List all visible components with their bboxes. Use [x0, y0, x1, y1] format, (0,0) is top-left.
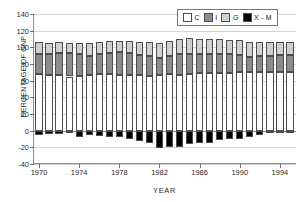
bar-segment-g	[276, 42, 283, 55]
bar-segment-i	[86, 56, 93, 75]
y-axis-tick-mark	[30, 147, 34, 148]
bar-segment-c	[286, 72, 293, 130]
bar-group	[76, 14, 83, 164]
chart-legend: CIGX - M	[177, 9, 278, 26]
x-axis-tick-label: 1990	[231, 168, 248, 177]
y-axis-tick-mark	[30, 14, 34, 15]
bar-segment-c	[35, 74, 42, 130]
legend-label: X - M	[254, 14, 272, 21]
bar-group	[136, 14, 143, 164]
bar-segment-i	[216, 54, 223, 73]
bar-segment-xm	[55, 131, 62, 135]
bar-group	[126, 14, 133, 164]
bar-segment-c	[96, 74, 103, 130]
x-axis-tick-mark	[280, 164, 281, 168]
bar-segment-i	[176, 54, 183, 75]
bar-segment-g	[256, 42, 263, 57]
bar-segment-g	[96, 42, 103, 55]
bar-group	[266, 14, 273, 164]
y-axis-tick-mark	[30, 164, 34, 165]
bar-segment-i	[45, 54, 52, 75]
bar-segment-c	[246, 72, 253, 130]
bar-segment-g	[286, 42, 293, 55]
y-axis-tick-mark	[30, 47, 34, 48]
bar-segment-g	[35, 42, 42, 54]
bar-segment-xm	[136, 131, 143, 142]
legend-item-i: I	[204, 13, 218, 22]
legend-label: G	[233, 14, 239, 21]
bar-group	[45, 14, 52, 164]
x-axis-tick-label: 1974	[71, 168, 88, 177]
bar-segment-i	[226, 54, 233, 72]
bar-segment-i	[166, 56, 173, 74]
bar-segment-i	[116, 52, 123, 75]
y-axis-tick-mark	[30, 64, 34, 65]
bar-segment-xm	[216, 131, 223, 140]
y-axis-tick-label: -40	[18, 160, 29, 169]
bar-segment-i	[256, 56, 263, 72]
legend-swatch	[243, 13, 252, 22]
bar-segment-i	[266, 56, 273, 72]
bar-segment-i	[156, 58, 163, 75]
bar-segment-g	[236, 40, 243, 55]
bar-segment-i	[96, 54, 103, 74]
bar-group	[176, 14, 183, 164]
x-axis-tick-label: 1994	[272, 168, 289, 177]
bar-segment-c	[196, 73, 203, 131]
bar-segment-xm	[45, 131, 52, 134]
plot-area: -40-20020406080100120140 197019741978198…	[33, 14, 296, 164]
bar-group	[276, 14, 283, 164]
bar-segment-xm	[156, 131, 163, 148]
bar-segment-c	[236, 72, 243, 130]
bar-segment-i	[206, 54, 213, 73]
bar-segment-c	[45, 75, 52, 131]
bar-group	[156, 14, 163, 164]
y-axis-tick-label: 120	[16, 26, 29, 35]
bar-segment-xm	[186, 131, 193, 144]
bar-segment-xm	[246, 131, 253, 137]
bar-segment-i	[276, 55, 283, 73]
x-axis-tick-label: 1986	[191, 168, 208, 177]
bar-segment-c	[256, 72, 263, 131]
bar-segment-g	[55, 42, 62, 52]
bar-segment-xm	[126, 131, 133, 139]
bar-segment-c	[156, 75, 163, 131]
bar-segment-g	[166, 41, 173, 56]
bar-segment-xm	[266, 131, 273, 134]
bar-segment-g	[226, 40, 233, 55]
bar-segment-c	[116, 75, 123, 131]
x-axis-tick-label: 1978	[111, 168, 128, 177]
bar-segment-g	[86, 43, 93, 56]
bar-segment-xm	[196, 131, 203, 143]
bar-segment-g	[266, 42, 273, 56]
bar-segment-c	[146, 76, 153, 131]
legend-item-x-m: X - M	[243, 13, 272, 22]
x-axis-tick-mark	[240, 164, 241, 168]
bar-segment-xm	[106, 131, 113, 138]
bar-segment-c	[206, 73, 213, 131]
bar-segment-i	[186, 54, 193, 74]
legend-item-g: G	[221, 13, 238, 22]
bar-segment-c	[216, 73, 223, 131]
bar-segment-g	[156, 43, 163, 58]
bar-segment-g	[216, 39, 223, 54]
bar-segment-i	[106, 53, 113, 75]
y-axis-tick-label: 60	[21, 76, 29, 85]
gridline	[33, 164, 296, 165]
bar-group	[35, 14, 42, 164]
chart-container: PERCENTAGE OF GNP YEAR -40-2002040608010…	[0, 0, 304, 202]
y-axis-line	[33, 14, 34, 164]
x-axis-tick-label: 1970	[31, 168, 48, 177]
bar-segment-xm	[76, 131, 83, 137]
bar-group	[55, 14, 62, 164]
legend-label: C	[195, 14, 200, 21]
bar-segment-c	[136, 75, 143, 131]
bar-segment-i	[126, 53, 133, 75]
bar-segment-c	[86, 75, 93, 131]
bar-segment-g	[146, 42, 153, 56]
bar-segment-g	[76, 43, 83, 55]
bar-segment-g	[66, 43, 73, 53]
bar-segment-xm	[86, 131, 93, 135]
bar-segment-g	[136, 42, 143, 55]
bar-segment-xm	[35, 131, 42, 135]
